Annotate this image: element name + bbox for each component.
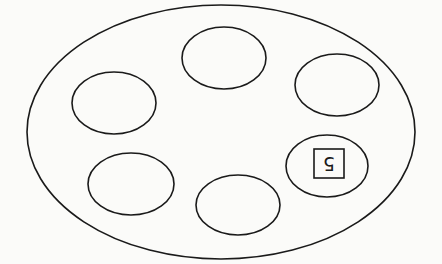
inner-ellipse-bottom-left [88, 153, 174, 215]
inner-ellipse-upper-right [295, 54, 379, 116]
inner-ellipse-top [182, 27, 266, 89]
ellipse-diagram: 5 [0, 0, 442, 264]
inner-ellipse-bottom [196, 175, 280, 235]
label-box-text: 5 [323, 153, 335, 175]
outer-ellipse [27, 5, 415, 259]
inner-ellipse-left [72, 72, 156, 134]
